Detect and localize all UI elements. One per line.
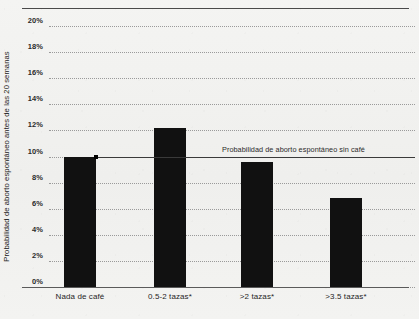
reference-line-label: Probabilidad de aborto espontáneo sin ca… (222, 145, 365, 154)
y-axis-tick-label: 0% (32, 277, 43, 286)
gridline (49, 52, 415, 53)
gridline (49, 183, 415, 184)
y-axis-tick-label: 16% (28, 68, 43, 77)
bar-1 (154, 128, 186, 287)
y-axis-tick-label: 12% (28, 120, 43, 129)
reference-line (96, 157, 415, 158)
y-axis-tick-label: 8% (32, 173, 43, 182)
gridline (49, 78, 415, 79)
x-axis-category-label: >2 tazas* (240, 292, 274, 301)
reference-line-marker (94, 155, 98, 159)
y-axis-tick-label: 2% (32, 251, 43, 260)
y-axis-tick-label: 4% (32, 225, 43, 234)
x-axis-category-label: Nada de café (56, 292, 105, 301)
x-axis-category-label: 0.5-2 tazas* (148, 292, 192, 301)
gridline (49, 26, 415, 27)
top-rule-divider (22, 8, 409, 9)
y-axis-tick-label: 14% (28, 94, 43, 103)
x-axis-category-label: >3.5 tazas* (325, 292, 366, 301)
gridline (49, 130, 415, 131)
y-axis-title: Probabilidad de aborto espontáneo antes … (2, 26, 16, 287)
y-axis-tick-label: 6% (32, 199, 43, 208)
gridline (49, 104, 415, 105)
y-axis-tick-label: 20% (28, 16, 43, 25)
y-axis-tick-label: 10% (28, 147, 43, 156)
bar-3 (330, 198, 362, 287)
bar-2 (241, 162, 273, 287)
chart-page: Probabilidad de aborto espontáneo antes … (0, 0, 419, 319)
bar-0 (64, 157, 96, 288)
x-axis-line (22, 287, 409, 288)
y-axis-tick-label: 18% (28, 42, 43, 51)
